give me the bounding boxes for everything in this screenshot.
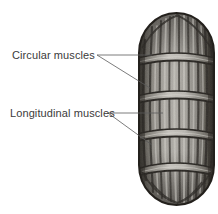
label-circular-muscles: Circular muscles (12, 49, 95, 61)
label-longitudinal-muscles: Longitudinal muscles (10, 107, 115, 119)
engraving-texture (135, 13, 218, 205)
muscle-diagram-figure: Circular muscles Longitudinal muscles (0, 0, 218, 214)
organism-illustration (135, 13, 218, 205)
